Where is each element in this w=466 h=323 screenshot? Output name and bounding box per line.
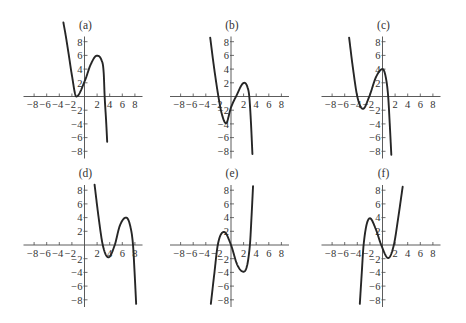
y-tick-label: 8 [224,37,229,48]
y-tick-label: 8 [77,185,82,196]
x-tick-label: 4 [107,99,113,110]
x-tick-label: −4 [52,248,64,259]
x-tick-label: 6 [418,99,423,110]
panel-label: (f) [378,167,390,180]
x-tick-label: −4 [199,99,211,110]
x-tick-label: −8 [27,99,38,110]
x-tick-label: 8 [430,248,435,259]
x-tick-label: 8 [279,248,284,259]
y-tick-label: −6 [369,281,380,292]
panel-f: (f)−8−6−4−224688642−2−4−6−8 [322,167,441,307]
function-curve-d [95,185,137,304]
x-tick-label: 8 [430,99,435,110]
y-tick-label: −4 [71,119,83,130]
y-tick-label: 8 [224,185,229,196]
panel-label: (c) [377,19,390,32]
x-tick-label: −6 [40,99,51,110]
y-tick-label: −8 [369,146,380,157]
panel-c: (c)−8−6−4−224688642−2−4−6−8 [322,19,441,159]
y-tick-label: −8 [218,146,229,157]
y-tick-label: −8 [369,295,380,306]
x-tick-label: −6 [338,248,349,259]
y-tick-label: 4 [77,212,83,223]
y-tick-label: −4 [369,119,381,130]
y-tick-label: −8 [71,146,82,157]
x-tick-label: −6 [40,248,51,259]
x-tick-label: 4 [405,248,411,259]
panel-label: (b) [225,19,239,32]
function-graphs-figure: (a)−8−6−4−224688642−2−4−6−8(b)−8−6−4−224… [0,0,466,323]
y-tick-label: 6 [375,50,380,61]
y-tick-label: 6 [224,199,229,210]
x-tick-label: −8 [325,248,336,259]
y-tick-label: 8 [375,185,380,196]
x-tick-label: −4 [52,99,64,110]
x-tick-label: 4 [254,248,260,259]
y-tick-label: 4 [77,64,83,75]
x-tick-label: −8 [174,248,185,259]
x-tick-label: 6 [418,248,423,259]
x-tick-label: 2 [94,248,99,259]
x-tick-label: −6 [338,99,349,110]
y-tick-label: 4 [224,64,230,75]
y-tick-label: 2 [224,78,229,89]
x-tick-label: 6 [120,248,125,259]
y-tick-label: 6 [77,50,82,61]
y-tick-label: −2 [218,254,229,265]
y-tick-label: −6 [218,132,229,143]
y-tick-label: 6 [224,50,229,61]
x-tick-label: −8 [27,248,38,259]
x-tick-label: −4 [350,248,362,259]
x-tick-label: −4 [199,248,211,259]
x-tick-label: −8 [174,99,185,110]
y-tick-label: −8 [71,295,82,306]
x-tick-label: 8 [132,99,137,110]
y-tick-label: 4 [224,212,230,223]
panel-e: (e)−8−6−4−224688642−2−4−6−8 [170,167,289,307]
y-tick-label: −2 [369,254,380,265]
y-tick-label: 2 [77,226,82,237]
y-tick-label: −4 [71,267,83,278]
x-tick-label: 2 [241,99,246,110]
y-tick-label: −6 [369,132,380,143]
x-tick-label: 6 [120,99,125,110]
y-tick-label: 8 [77,37,82,48]
x-tick-label: −8 [325,99,336,110]
x-tick-label: 2 [392,99,397,110]
y-tick-label: 4 [375,212,381,223]
x-tick-label: 8 [279,99,284,110]
panel-b: (b)−8−6−4−224688642−2−4−6−8 [170,19,289,159]
y-tick-label: −8 [218,295,229,306]
y-tick-label: −4 [218,267,230,278]
x-tick-label: 6 [266,99,271,110]
x-tick-label: 4 [405,99,411,110]
y-tick-label: −2 [369,105,380,116]
y-tick-label: 6 [77,199,82,210]
x-tick-label: −6 [186,248,197,259]
y-tick-label: −6 [71,281,82,292]
y-tick-label: −2 [71,254,82,265]
panel-label: (a) [79,19,92,32]
x-tick-label: 6 [266,248,271,259]
x-tick-label: 4 [254,99,260,110]
x-tick-label: 2 [241,248,246,259]
x-tick-label: 2 [94,99,99,110]
y-tick-label: 6 [375,199,380,210]
y-tick-label: −6 [218,281,229,292]
panel-label: (e) [226,167,239,180]
y-tick-label: 8 [375,37,380,48]
y-tick-label: −4 [369,267,381,278]
panel-a: (a)−8−6−4−224688642−2−4−6−8 [24,19,143,159]
panel-d: (d)−8−6−4−224688642−2−4−6−8 [24,167,143,307]
y-tick-label: −2 [71,105,82,116]
panel-label: (d) [79,167,93,180]
x-tick-label: −6 [186,99,197,110]
y-tick-label: −6 [71,132,82,143]
